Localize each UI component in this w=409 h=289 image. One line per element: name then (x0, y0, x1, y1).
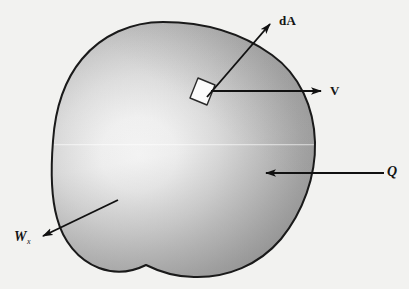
work-label-subscript: x (27, 237, 31, 246)
area-normal-label: dA (279, 14, 296, 27)
heat-label: Q (387, 165, 397, 179)
control-volume-figure: dA V Q Wx (0, 0, 409, 289)
work-label-base: W (14, 229, 26, 244)
scan-seam-line (53, 144, 315, 145)
velocity-label: V (330, 84, 340, 97)
work-label: Wx (14, 230, 30, 244)
figure-canvas (0, 0, 409, 289)
